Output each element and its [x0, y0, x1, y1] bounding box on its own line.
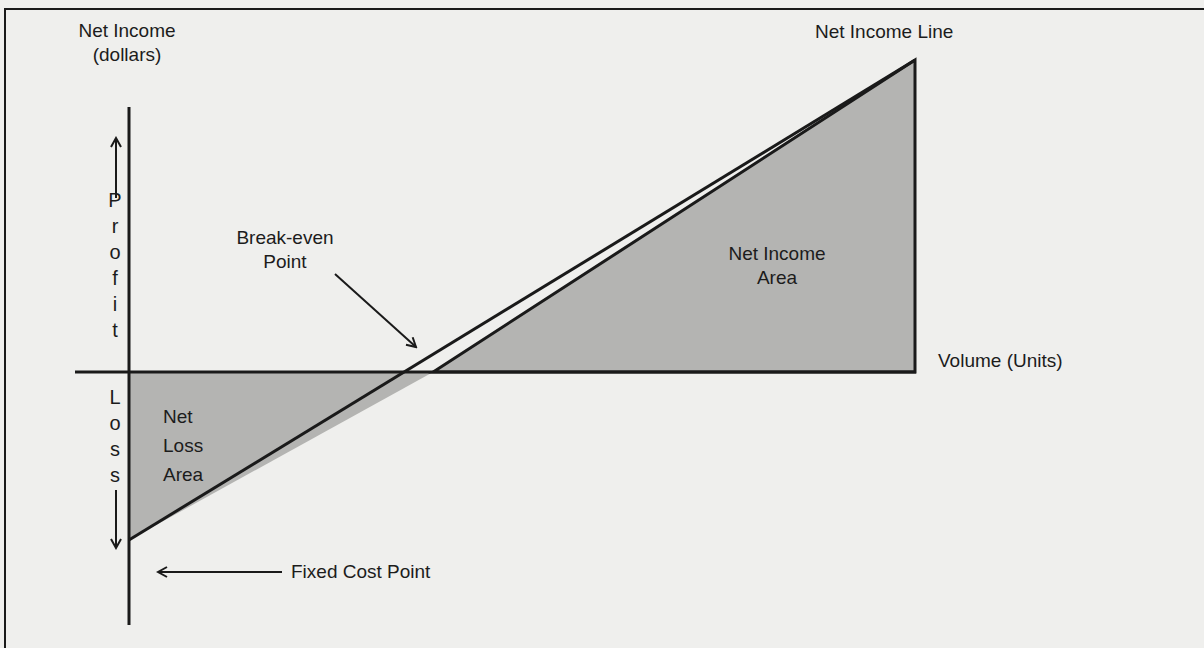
net-income-line-label: Net Income Line: [815, 20, 953, 44]
net-loss-area-label-line3: Area: [163, 460, 203, 489]
net-income-area-label-line2: Area: [712, 266, 842, 290]
fixed-cost-point-label: Fixed Cost Point: [291, 560, 430, 584]
profit-letter: P: [105, 187, 125, 213]
profit-letter: t: [105, 317, 125, 343]
break-even-label: Break-even Point: [222, 226, 348, 274]
net-income-area-label-line1: Net Income: [712, 242, 842, 266]
loss-letter: s: [105, 462, 125, 488]
break-even-label-line1: Break-even: [222, 226, 348, 250]
y-axis-label-line2: (dollars): [62, 43, 192, 67]
loss-letter: o: [105, 410, 125, 436]
profit-vertical-label: P r o f i t: [105, 187, 125, 343]
loss-vertical-label: L o s s: [105, 384, 125, 488]
profit-letter: o: [105, 239, 125, 265]
profit-letter: r: [105, 213, 125, 239]
y-axis-label-line1: Net Income: [62, 19, 192, 43]
profit-letter: f: [105, 265, 125, 291]
net-income-area-label: Net Income Area: [712, 242, 842, 290]
break-even-label-line2: Point: [222, 250, 348, 274]
net-loss-area-label-line2: Loss: [163, 431, 203, 460]
x-axis-label: Volume (Units): [938, 349, 1063, 373]
loss-letter: s: [105, 436, 125, 462]
net-loss-area-label: Net Loss Area: [163, 402, 203, 489]
loss-letter: L: [105, 384, 125, 410]
net-loss-area-label-line1: Net: [163, 402, 203, 431]
net-income-area: [433, 60, 915, 372]
break-even-arrow-icon: [335, 274, 416, 347]
y-axis-label: Net Income (dollars): [62, 19, 192, 67]
profit-letter: i: [105, 291, 125, 317]
